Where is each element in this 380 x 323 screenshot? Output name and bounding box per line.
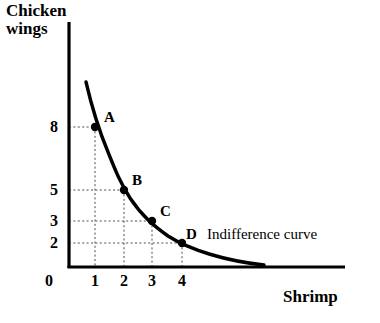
point-label-d: D <box>186 226 197 242</box>
gridlines-horizontal <box>69 127 182 243</box>
data-point-a <box>91 123 99 131</box>
y-tick-label-2: 2 <box>36 234 58 251</box>
x-tick-label-3: 3 <box>143 272 161 289</box>
x-tick-label-0: 0 <box>40 272 58 289</box>
x-tick-label-2: 2 <box>115 272 133 289</box>
data-point-d <box>178 239 186 247</box>
y-tick-label-8: 8 <box>36 118 58 135</box>
data-point-c <box>148 217 156 225</box>
indifference-curve-chart: Chickenwings Shrimp 8 5 3 2 0 1 2 3 4 A … <box>0 0 380 323</box>
indifference-curve-annotation: Indifference curve <box>207 226 317 242</box>
y-tick-label-3: 3 <box>36 212 58 229</box>
x-axis-title: Shrimp <box>283 288 338 306</box>
y-axis-title-line1: Chicken <box>6 1 66 20</box>
x-tick-label-4: 4 <box>173 272 191 289</box>
point-label-c: C <box>160 203 171 219</box>
y-axis-title-line2: wings <box>6 19 48 38</box>
data-point-b <box>120 186 128 194</box>
point-label-b: B <box>132 172 142 188</box>
y-axis-title: Chickenwings <box>6 2 66 39</box>
y-tick-label-5: 5 <box>36 181 58 198</box>
x-tick-label-1: 1 <box>86 272 104 289</box>
point-label-a: A <box>104 109 115 125</box>
